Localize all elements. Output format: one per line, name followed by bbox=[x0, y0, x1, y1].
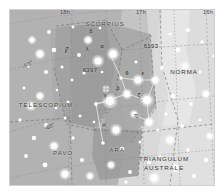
star bbox=[172, 165, 178, 171]
star bbox=[135, 61, 138, 64]
star bbox=[63, 116, 66, 119]
star bbox=[80, 158, 84, 162]
star bbox=[94, 102, 98, 106]
star bbox=[55, 107, 58, 110]
star bbox=[192, 174, 196, 178]
star bbox=[167, 137, 173, 143]
star bbox=[43, 163, 48, 168]
star bbox=[52, 48, 57, 53]
star bbox=[66, 100, 69, 103]
star bbox=[77, 53, 81, 57]
star-chart: SCORPIUSNORMATELESCOPIUMPAVOARATRIANGULU… bbox=[0, 0, 224, 194]
star bbox=[151, 175, 158, 182]
star bbox=[186, 148, 190, 152]
star bbox=[135, 77, 142, 84]
star bbox=[23, 87, 26, 90]
star bbox=[109, 50, 117, 58]
star bbox=[29, 37, 34, 42]
star bbox=[101, 141, 105, 145]
star bbox=[24, 154, 28, 158]
star bbox=[71, 79, 74, 82]
star bbox=[180, 124, 184, 128]
star bbox=[204, 158, 209, 163]
star bbox=[124, 180, 127, 183]
star bbox=[152, 77, 158, 83]
star bbox=[32, 136, 36, 140]
star bbox=[44, 123, 48, 127]
star bbox=[124, 91, 130, 97]
star bbox=[26, 64, 29, 67]
sky-map-frame: SCORPIUSNORMATELESCOPIUMPAVOARATRIANGULU… bbox=[9, 9, 215, 186]
star bbox=[82, 71, 85, 74]
star bbox=[93, 121, 96, 124]
star bbox=[158, 154, 161, 157]
star bbox=[176, 48, 181, 53]
star bbox=[94, 57, 101, 64]
star bbox=[186, 28, 190, 32]
star bbox=[28, 103, 34, 109]
star bbox=[200, 40, 203, 43]
star bbox=[131, 111, 136, 116]
star bbox=[51, 143, 57, 149]
star bbox=[160, 66, 164, 70]
star bbox=[62, 171, 69, 178]
star bbox=[128, 170, 132, 174]
star bbox=[56, 89, 59, 92]
star bbox=[146, 119, 152, 125]
star bbox=[207, 133, 212, 138]
star bbox=[120, 147, 125, 152]
star bbox=[147, 160, 151, 164]
star bbox=[101, 71, 104, 74]
star bbox=[119, 76, 122, 79]
star bbox=[72, 26, 75, 29]
star bbox=[37, 93, 42, 98]
star bbox=[138, 140, 141, 143]
star bbox=[203, 91, 209, 97]
star bbox=[157, 129, 160, 132]
sky-map-canvas bbox=[10, 10, 214, 185]
star bbox=[182, 63, 187, 68]
star bbox=[79, 115, 82, 118]
star bbox=[189, 102, 193, 106]
star bbox=[18, 118, 22, 122]
star bbox=[44, 70, 48, 74]
star bbox=[47, 30, 51, 34]
star bbox=[199, 71, 202, 74]
star bbox=[171, 94, 176, 99]
star bbox=[164, 112, 167, 115]
star bbox=[85, 37, 91, 43]
star bbox=[112, 126, 119, 133]
star bbox=[143, 96, 151, 104]
star bbox=[87, 173, 92, 178]
star bbox=[71, 136, 74, 139]
star bbox=[198, 118, 201, 121]
star bbox=[99, 27, 102, 30]
star bbox=[168, 32, 171, 35]
star bbox=[60, 65, 63, 68]
star bbox=[106, 97, 115, 106]
star bbox=[37, 51, 43, 57]
star bbox=[108, 162, 113, 167]
